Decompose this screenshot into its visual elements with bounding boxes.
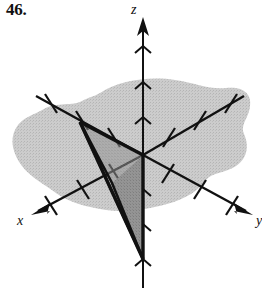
coordinate-system-figure: z x y: [0, 0, 262, 292]
z-axis-label: z: [130, 2, 137, 17]
y-axis-label: y: [254, 213, 262, 228]
x-axis-label: x: [16, 213, 24, 228]
figure-container: 46.: [0, 0, 262, 292]
